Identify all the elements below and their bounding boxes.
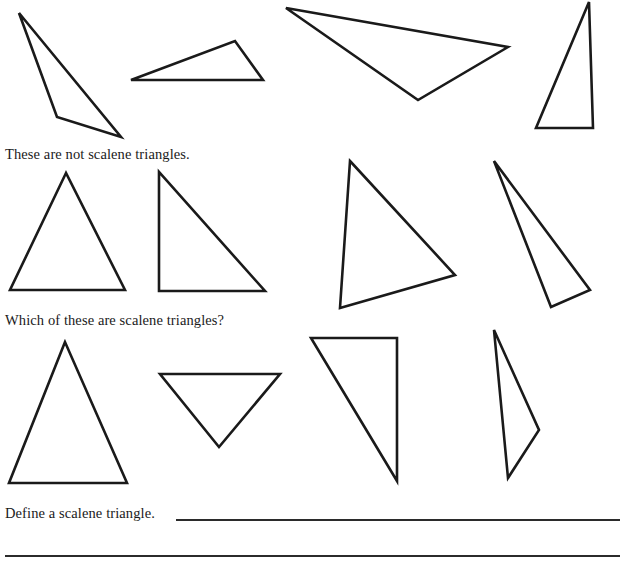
triangle-row2-1 [10,173,125,290]
triangle-row3-2 [160,374,280,447]
row-not-scalene-examples [19,2,593,137]
answer-blank-line-2[interactable] [5,555,620,557]
triangle-row1-3 [286,8,508,100]
caption-not-scalene: These are not scalene triangles. [5,147,190,162]
triangle-row2-2 [159,172,265,291]
triangle-row2-4 [494,161,590,307]
triangle-row1-1 [19,13,121,137]
row-which-scalene-lower [9,330,539,483]
triangle-row3-1 [9,342,127,483]
question-which-scalene: Which of these are scalene triangles? [5,313,224,328]
answer-blank-line-1[interactable] [176,519,620,521]
triangle-row3-4 [494,330,539,478]
triangle-row2-3 [340,161,455,308]
triangle-row1-2 [131,41,263,80]
triangle-row1-4 [536,2,593,128]
row-which-scalene-upper [10,161,590,308]
question-define-scalene: Define a scalene triangle. [5,506,155,521]
triangle-row3-3 [311,338,397,481]
triangle-figures [0,0,625,568]
worksheet-page: These are not scalene triangles. Which o… [0,0,625,568]
